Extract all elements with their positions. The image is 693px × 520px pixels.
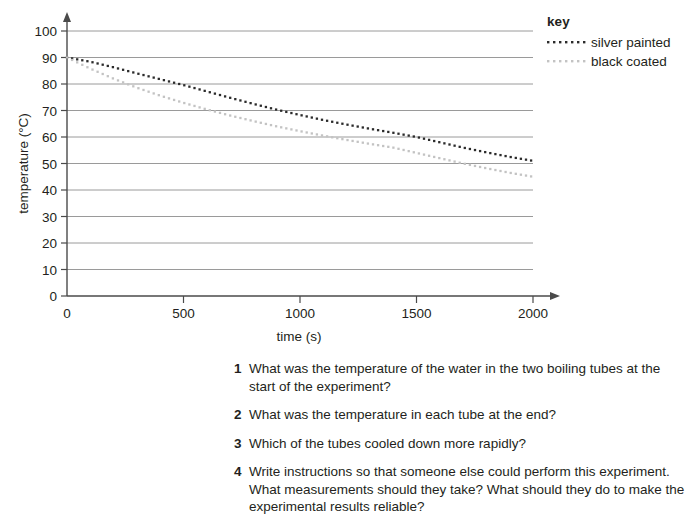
y-axis-tick-label: 60 bbox=[42, 130, 57, 145]
data-point bbox=[153, 76, 155, 78]
data-point bbox=[76, 61, 78, 63]
legend-label-black-coated: black coated bbox=[591, 54, 667, 69]
data-point bbox=[255, 120, 257, 122]
data-point bbox=[438, 157, 440, 159]
data-point bbox=[234, 98, 236, 100]
data-point bbox=[188, 103, 190, 105]
data-point bbox=[239, 117, 241, 119]
data-point bbox=[280, 110, 282, 112]
data-point bbox=[489, 168, 491, 170]
data-point bbox=[198, 88, 200, 90]
data-point bbox=[306, 131, 308, 133]
data-point bbox=[326, 120, 328, 122]
data-point bbox=[351, 124, 353, 126]
data-point bbox=[382, 145, 384, 147]
data-point bbox=[494, 153, 496, 155]
data-point bbox=[249, 102, 251, 104]
data-point bbox=[433, 156, 435, 158]
question-number: 2 bbox=[234, 406, 249, 424]
x-axis-label: time (s) bbox=[277, 329, 322, 344]
data-point bbox=[66, 56, 68, 58]
data-point bbox=[484, 167, 486, 169]
data-point bbox=[132, 71, 134, 73]
data-point bbox=[107, 65, 109, 67]
data-point bbox=[326, 135, 328, 137]
data-point bbox=[127, 83, 129, 85]
data-point bbox=[260, 105, 262, 107]
data-point bbox=[392, 147, 394, 149]
data-point bbox=[311, 132, 313, 134]
data-point bbox=[423, 153, 425, 155]
question-number: 3 bbox=[234, 435, 249, 453]
data-point bbox=[453, 145, 455, 147]
data-point bbox=[346, 139, 348, 141]
data-point bbox=[112, 77, 114, 79]
series-black-coated bbox=[66, 56, 532, 177]
data-point bbox=[367, 142, 369, 144]
series-silver-painted bbox=[66, 56, 532, 161]
question-text: What was the temperature of the water in… bbox=[249, 360, 686, 395]
y-axis-tick-label: 80 bbox=[42, 77, 57, 92]
chart-legend: key silver painted bbox=[547, 14, 693, 70]
data-point bbox=[397, 148, 399, 150]
data-point bbox=[275, 125, 277, 127]
data-point bbox=[204, 108, 206, 110]
data-point bbox=[193, 105, 195, 107]
data-point bbox=[107, 75, 109, 77]
data-point bbox=[448, 143, 450, 145]
legend-swatch-silver-painted bbox=[547, 37, 589, 48]
data-point bbox=[469, 148, 471, 150]
data-point bbox=[112, 66, 114, 68]
data-point bbox=[173, 82, 175, 84]
data-point bbox=[117, 79, 119, 81]
data-point bbox=[91, 68, 93, 70]
data-point bbox=[525, 174, 527, 176]
data-point bbox=[459, 162, 461, 164]
legend-title: key bbox=[547, 14, 693, 29]
data-point bbox=[214, 92, 216, 94]
data-point bbox=[397, 133, 399, 135]
data-point bbox=[183, 84, 185, 86]
data-point bbox=[387, 131, 389, 133]
data-point bbox=[504, 171, 506, 173]
data-point bbox=[448, 159, 450, 161]
data-point bbox=[494, 169, 496, 171]
data-point bbox=[520, 158, 522, 160]
data-point bbox=[453, 160, 455, 162]
data-point bbox=[433, 140, 435, 142]
x-axis-tick-label: 1500 bbox=[401, 306, 431, 321]
data-point bbox=[188, 86, 190, 88]
legend-label-silver-painted: silver painted bbox=[591, 35, 671, 50]
data-point bbox=[280, 126, 282, 128]
data-point bbox=[402, 134, 404, 136]
question-item: 4 Write instructions so that someone els… bbox=[234, 463, 686, 516]
data-point bbox=[377, 144, 379, 146]
data-point bbox=[443, 142, 445, 144]
data-point bbox=[102, 64, 104, 66]
data-point bbox=[438, 141, 440, 143]
data-point bbox=[316, 133, 318, 135]
data-point bbox=[316, 118, 318, 120]
data-point bbox=[474, 165, 476, 167]
x-axis-tick-label: 2000 bbox=[518, 306, 548, 321]
data-point bbox=[510, 156, 512, 158]
data-point bbox=[142, 74, 144, 76]
data-point bbox=[158, 78, 160, 80]
data-point bbox=[209, 109, 211, 111]
data-point bbox=[504, 155, 506, 157]
question-item: 1 What was the temperature of the water … bbox=[234, 360, 686, 395]
data-point bbox=[86, 60, 88, 62]
data-point bbox=[300, 114, 302, 116]
data-point bbox=[219, 94, 221, 96]
data-point bbox=[362, 126, 364, 128]
data-point bbox=[530, 159, 532, 161]
data-point bbox=[255, 103, 257, 105]
question-item: 2 What was the temperature in each tube … bbox=[234, 406, 686, 424]
data-point bbox=[168, 80, 170, 82]
data-point bbox=[336, 137, 338, 139]
data-point bbox=[270, 107, 272, 109]
data-point bbox=[285, 127, 287, 129]
y-axis-tick-label: 0 bbox=[49, 289, 57, 304]
data-point bbox=[423, 138, 425, 140]
data-point bbox=[321, 119, 323, 121]
